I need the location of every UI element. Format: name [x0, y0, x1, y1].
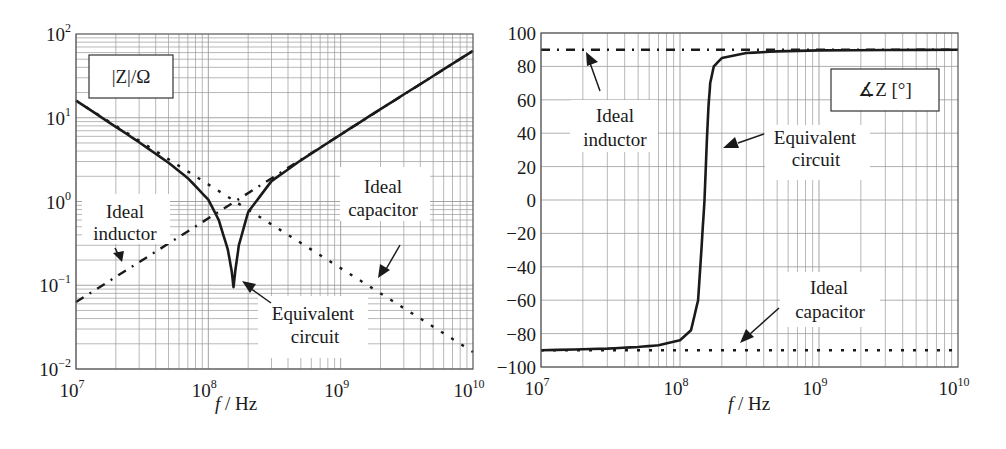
y-tick-label: 20	[517, 157, 536, 178]
x-tick-label: 108	[192, 377, 217, 401]
annotation-ideal-inductor-line2: inductor	[93, 223, 157, 244]
y-tick-label: −100	[497, 357, 536, 378]
magnitude-chart: |Z|/Ω 10210110010−110−2 1071081091010 f …	[39, 21, 484, 414]
arrow-icon	[586, 52, 600, 91]
annotation-ideal-capacitor-line1: Ideal	[364, 176, 402, 197]
annotation-ideal-capacitor-line2: capacitor	[348, 199, 418, 220]
x-tick-label: 107	[60, 377, 85, 401]
x-tick-label: 109	[324, 377, 349, 401]
x-tick-label: 109	[803, 375, 828, 399]
arrow-icon	[378, 245, 400, 278]
magnitude-x-ticks: 1071081091010	[60, 377, 485, 401]
magnitude-legend-box: |Z|/Ω	[89, 55, 173, 98]
annotation-ideal-capacitor-line1: Ideal	[810, 277, 848, 298]
y-tick-label: 10−2	[39, 356, 71, 380]
annotation-ideal-inductor-line1: Ideal	[106, 201, 144, 222]
annotation-ideal-inductor-line2: inductor	[583, 129, 647, 150]
y-tick-label: 60	[517, 90, 536, 111]
y-tick-label: 102	[46, 21, 71, 45]
phase-legend-box: ∡Z [°]	[831, 69, 939, 111]
annotation-equivalent-circuit-line2: circuit	[291, 326, 340, 347]
arrow-icon	[723, 134, 764, 148]
phase-chart: ∡Z [°] 100806040200−20−40−60−80−100 1071…	[497, 23, 970, 414]
y-tick-label: −40	[506, 257, 536, 278]
annotation-equivalent-circuit-line1: Equivalent	[774, 127, 857, 148]
annotation-equivalent-circuit-line2: circuit	[792, 149, 841, 170]
magnitude-x-axis-label: f / Hz	[215, 393, 257, 414]
y-tick-label: 100	[508, 23, 537, 44]
phase-y-ticks: 100806040200−20−40−60−80−100	[497, 23, 536, 378]
x-tick-label: 1010	[939, 375, 970, 399]
arrow-icon	[242, 281, 271, 303]
phase-legend-label: ∡Z [°]	[858, 79, 912, 100]
annotation-equivalent-circuit-line1: Equivalent	[272, 303, 355, 324]
magnitude-legend-label: |Z|/Ω	[112, 66, 151, 87]
x-tick-label: 107	[525, 375, 550, 399]
arrow-icon	[740, 308, 779, 343]
y-tick-label: 100	[46, 189, 71, 213]
y-tick-label: 101	[46, 105, 71, 129]
x-tick-label: 1010	[454, 377, 485, 401]
y-tick-label: −80	[506, 324, 536, 345]
phase-x-axis-label: f / Hz	[728, 393, 770, 414]
annotation-ideal-inductor-line1: Ideal	[596, 105, 634, 126]
y-tick-label: 0	[527, 190, 537, 211]
y-tick-label: 10−1	[39, 272, 71, 296]
y-tick-label: −20	[506, 223, 536, 244]
y-tick-label: −60	[506, 290, 536, 311]
annotation-ideal-capacitor-line2: capacitor	[795, 301, 865, 322]
magnitude-y-ticks: 10210110010−110−2	[39, 21, 71, 380]
x-tick-label: 108	[664, 375, 689, 399]
y-tick-label: 80	[517, 56, 536, 77]
y-tick-label: 40	[517, 123, 536, 144]
